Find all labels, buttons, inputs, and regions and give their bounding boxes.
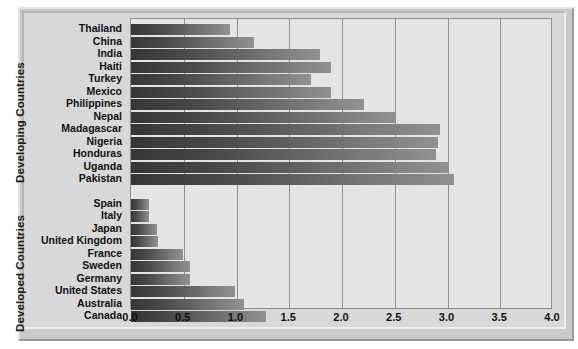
bar[interactable] — [131, 49, 320, 60]
bar-row — [131, 149, 553, 160]
bar[interactable] — [131, 74, 311, 85]
bar[interactable] — [131, 249, 183, 260]
bar-row — [131, 211, 553, 222]
x-axis-tick-labels: 0.00.51.01.52.02.53.03.54.0 — [130, 311, 552, 327]
bar[interactable] — [131, 62, 331, 73]
bar[interactable] — [131, 37, 254, 48]
x-tick-label: 0.0 — [122, 311, 137, 323]
bar-row — [131, 162, 553, 173]
bar-row — [131, 87, 553, 98]
category-label: Haiti — [99, 61, 122, 72]
bar[interactable] — [131, 286, 235, 297]
x-tick-label: 1.0 — [228, 311, 243, 323]
category-label: Turkey — [88, 73, 122, 84]
bar-row — [131, 62, 553, 73]
bar[interactable] — [131, 261, 190, 272]
bar-row — [131, 224, 553, 235]
bar[interactable] — [131, 137, 438, 148]
bar[interactable] — [131, 24, 230, 35]
bar-row — [131, 112, 553, 123]
category-label: Thailand — [79, 23, 122, 34]
bar-row — [131, 286, 553, 297]
bars-container — [131, 19, 551, 308]
bar[interactable] — [131, 199, 149, 210]
bar-row — [131, 174, 553, 185]
category-label: Honduras — [73, 148, 122, 159]
bar[interactable] — [131, 124, 440, 135]
category-label: Pakistan — [79, 173, 122, 184]
bar[interactable] — [131, 87, 331, 98]
category-label: United Kingdom — [41, 235, 122, 246]
x-tick-label: 3.5 — [492, 311, 507, 323]
category-label: Uganda — [83, 161, 122, 172]
bar[interactable] — [131, 149, 436, 160]
bar[interactable] — [131, 236, 158, 247]
bar[interactable] — [131, 211, 149, 222]
bar[interactable] — [131, 274, 190, 285]
bar[interactable] — [131, 99, 364, 110]
bar-row — [131, 236, 553, 247]
bar[interactable] — [131, 224, 157, 235]
bar[interactable] — [131, 112, 395, 123]
category-label: Madagascar — [61, 123, 122, 134]
category-label: Sweden — [82, 260, 122, 271]
x-tick-label: 0.5 — [175, 311, 190, 323]
chart-figure: Developing Countries Developed Countries… — [0, 0, 578, 349]
category-label: Italy — [101, 210, 122, 221]
bar-row — [131, 299, 553, 310]
bar-row — [131, 37, 553, 48]
plot-area — [130, 18, 552, 309]
category-label: Nigeria — [86, 136, 122, 147]
x-tick-label: 2.0 — [333, 311, 348, 323]
x-tick-label: 1.5 — [281, 311, 296, 323]
bar-row — [131, 137, 553, 148]
bar-row — [131, 249, 553, 260]
bar-row — [131, 99, 553, 110]
bar[interactable] — [131, 174, 454, 185]
bar[interactable] — [131, 162, 449, 173]
category-label: Nepal — [93, 111, 122, 122]
category-label: China — [93, 36, 122, 47]
bar-row — [131, 199, 553, 210]
category-label: India — [97, 48, 122, 59]
bar-row — [131, 274, 553, 285]
category-label: Australia — [77, 298, 122, 309]
category-label: Spain — [93, 198, 122, 209]
bar-row — [131, 124, 553, 135]
bar-row — [131, 261, 553, 272]
category-label: Germany — [76, 273, 122, 284]
x-tick-label: 2.5 — [386, 311, 401, 323]
category-label: United States — [55, 285, 122, 296]
bar[interactable] — [131, 299, 244, 310]
bar-row — [131, 24, 553, 35]
category-label: Mexico — [86, 86, 122, 97]
category-label: Japan — [92, 223, 122, 234]
bar-row — [131, 74, 553, 85]
category-label: France — [88, 248, 122, 259]
bar-row — [131, 49, 553, 60]
x-tick-label: 4.0 — [544, 311, 559, 323]
category-label: Philippines — [66, 98, 122, 109]
x-tick-label: 3.0 — [439, 311, 454, 323]
category-label: Canada — [84, 310, 122, 321]
category-axis-labels: ThailandChinaIndiaHaitiTurkeyMexicoPhili… — [0, 18, 126, 309]
